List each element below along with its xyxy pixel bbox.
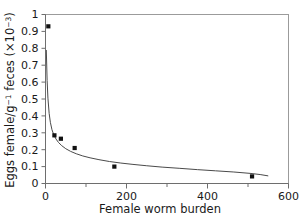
y-tick-label: 0.7 [21,59,39,72]
x-axis-title: Female worm burden [99,202,221,216]
fitted-curve [46,50,268,176]
data-point-marker [52,133,56,137]
y-tick-label: 0.1 [21,160,39,173]
fit-curve-path [46,50,268,176]
y-tick-label: 0.5 [21,93,39,106]
scatter-plot: 0200400600 00.10.20.30.40.50.60.70.80.91… [0,0,303,222]
y-axis-title: Eggs female/g−1 feces (×10−3) [3,12,17,188]
y-axis-ticks [42,15,46,184]
x-axis-tick-labels: 0200400600 [42,190,299,203]
y-tick-label: 1 [32,8,39,21]
x-axis-ticks [46,184,289,189]
y-tick-label: 0.8 [21,42,39,55]
x-tick-label: 200 [116,190,137,203]
y-tick-label: 0.9 [21,25,39,38]
data-point-marker [59,137,63,141]
x-tick-label: 400 [197,190,218,203]
y-tick-label: 0.6 [21,76,39,89]
x-tick-label: 600 [278,190,299,203]
x-tick-label: 0 [42,190,49,203]
chart-figure: 0200400600 00.10.20.30.40.50.60.70.80.91… [0,0,303,222]
data-point-marker [250,174,254,178]
data-point-marker [73,146,77,150]
data-point-marker [112,165,116,169]
y-tick-label: 0.3 [21,127,39,140]
plot-frame [46,15,289,184]
y-tick-label: 0 [32,177,39,190]
y-tick-label: 0.4 [21,110,39,123]
data-points [46,24,254,178]
data-point-marker [46,24,50,28]
y-tick-label: 0.2 [21,144,39,157]
y-axis-tick-labels: 00.10.20.30.40.50.60.70.80.91 [21,8,39,190]
